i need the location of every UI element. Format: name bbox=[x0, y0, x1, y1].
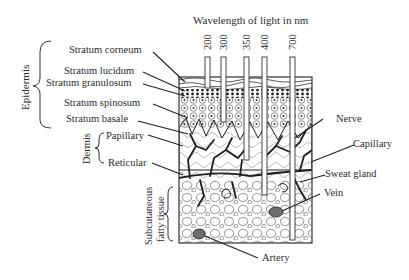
group-subcutaneous-line2: fatty tissue bbox=[155, 196, 167, 242]
wavelength-label-400: 400 bbox=[259, 34, 271, 50]
label-papillary: Papillary bbox=[106, 130, 144, 142]
label-stratum-spinosum: Stratum spinosum bbox=[64, 97, 140, 109]
wavelength-label-200: 200 bbox=[202, 34, 214, 50]
label-stratum-corneum: Stratum corneum bbox=[69, 44, 142, 56]
label-capillary: Capillary bbox=[353, 138, 392, 150]
wavelength-label-700: 700 bbox=[287, 34, 299, 50]
group-subcutaneous-line1: Subcutaneous bbox=[143, 187, 155, 245]
label-reticular: Reticular bbox=[108, 157, 146, 169]
label-artery: Artery bbox=[262, 252, 289, 264]
label-stratum-granulosum: Stratum granulosum bbox=[46, 77, 131, 89]
group-epidermis: Epidermis bbox=[19, 65, 31, 110]
wavelength-title: Wavelength of light in nm bbox=[193, 14, 308, 26]
wavelength-label-350: 350 bbox=[241, 34, 253, 50]
group-dermis: Dermis bbox=[81, 133, 93, 164]
wavelength-label-300: 300 bbox=[218, 34, 230, 50]
label-stratum-basale: Stratum basale bbox=[66, 113, 128, 125]
label-sweat-gland: Sweat gland bbox=[325, 168, 377, 180]
label-vein: Vein bbox=[324, 187, 343, 199]
label-stratum-lucidum: Stratum lucidum bbox=[64, 65, 134, 77]
label-nerve: Nerve bbox=[336, 113, 362, 125]
